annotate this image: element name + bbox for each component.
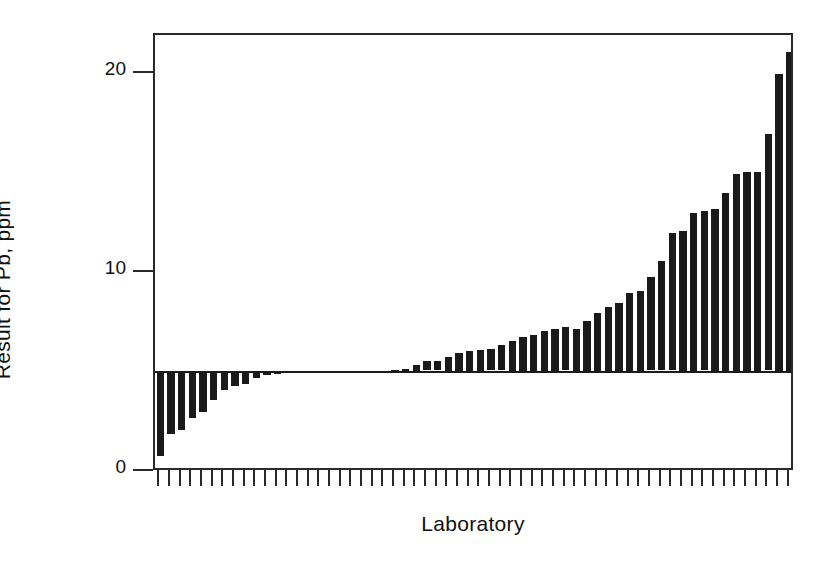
bar xyxy=(295,371,302,374)
bar xyxy=(306,371,313,373)
bar xyxy=(637,291,644,371)
bar xyxy=(402,369,409,371)
bar xyxy=(605,307,612,371)
x-axis-tick xyxy=(371,470,373,486)
bar xyxy=(647,277,654,371)
bar xyxy=(733,174,740,371)
bar xyxy=(594,313,601,371)
bar xyxy=(434,361,441,371)
x-axis-tick xyxy=(360,470,362,486)
x-axis-tick xyxy=(531,470,533,486)
y-axis-tick-label-text: 0 xyxy=(115,457,126,476)
x-axis-tick xyxy=(627,470,629,486)
bar xyxy=(445,357,452,371)
bar xyxy=(786,52,793,370)
bar xyxy=(679,231,686,370)
bar xyxy=(370,371,377,372)
x-axis-tick xyxy=(520,470,522,486)
y-axis-tick xyxy=(133,270,153,272)
y-axis-tick xyxy=(133,469,153,471)
bar xyxy=(775,74,782,371)
bar xyxy=(157,371,164,457)
bar xyxy=(743,172,750,371)
x-axis-tick xyxy=(339,470,341,486)
bar xyxy=(423,361,430,371)
x-axis-tick xyxy=(723,470,725,486)
x-axis-tick xyxy=(392,470,394,486)
x-axis-tick xyxy=(275,470,277,486)
bar xyxy=(615,303,622,371)
x-axis-tick xyxy=(744,470,746,486)
bar xyxy=(711,209,718,370)
x-axis-tick xyxy=(648,470,650,486)
x-axis-tick xyxy=(563,470,565,486)
y-axis-title: Result for Pb, ppm xyxy=(0,0,60,579)
x-axis-tick xyxy=(211,470,213,486)
y-axis-tick-label-text: 10 xyxy=(105,258,126,277)
x-axis-tick xyxy=(595,470,597,486)
y-axis-tick-label-text: 20 xyxy=(105,59,126,78)
x-axis-tick xyxy=(669,470,671,486)
x-axis-tick xyxy=(200,470,202,486)
x-axis-tick xyxy=(221,470,223,486)
y-axis-title-text: Result for Pb, ppm xyxy=(0,200,69,379)
x-axis-tick xyxy=(477,470,479,486)
y-axis-tick xyxy=(133,71,153,73)
x-axis-tick xyxy=(573,470,575,486)
x-axis-tick xyxy=(413,470,415,486)
bar xyxy=(754,172,761,371)
x-axis-tick xyxy=(605,470,607,486)
x-axis-tick xyxy=(243,470,245,486)
x-axis-tick xyxy=(456,470,458,486)
x-axis-tick xyxy=(381,470,383,486)
x-axis-tick xyxy=(445,470,447,486)
x-axis-tick xyxy=(253,470,255,486)
x-axis-tick xyxy=(189,470,191,486)
bar xyxy=(210,371,217,401)
bar xyxy=(509,341,516,371)
bar xyxy=(317,371,324,373)
bar xyxy=(349,371,356,372)
bar xyxy=(413,365,420,371)
bar xyxy=(530,335,537,371)
x-axis-tick xyxy=(168,470,170,486)
bar xyxy=(274,371,281,375)
x-axis-tick xyxy=(435,470,437,486)
plot-area xyxy=(153,33,793,470)
bar xyxy=(669,233,676,370)
x-axis-tick xyxy=(712,470,714,486)
bar xyxy=(199,371,206,413)
bar xyxy=(178,371,185,431)
x-axis-tick xyxy=(317,470,319,486)
x-axis-tick xyxy=(157,470,159,486)
bar xyxy=(338,371,345,372)
x-axis-tick xyxy=(232,470,234,486)
bar xyxy=(477,350,484,371)
reference-line xyxy=(155,371,791,373)
bar xyxy=(722,193,729,370)
x-axis-tick xyxy=(552,470,554,486)
x-axis-tick xyxy=(616,470,618,486)
bar xyxy=(327,371,334,373)
x-axis-tick xyxy=(765,470,767,486)
bar xyxy=(487,349,494,371)
bar xyxy=(498,345,505,371)
bar xyxy=(690,213,697,370)
x-axis-tick xyxy=(467,470,469,486)
x-axis-tick xyxy=(541,470,543,486)
bar xyxy=(242,371,249,385)
x-axis-tick xyxy=(659,470,661,486)
bar xyxy=(253,371,260,379)
bar xyxy=(381,371,388,372)
x-axis-title: Laboratory xyxy=(153,512,793,536)
x-axis-tick xyxy=(584,470,586,486)
x-axis-tick xyxy=(701,470,703,486)
x-axis-tick xyxy=(296,470,298,486)
x-axis-tick xyxy=(637,470,639,486)
bar xyxy=(573,329,580,371)
bar xyxy=(231,371,238,387)
bar xyxy=(455,353,462,371)
bar xyxy=(583,321,590,371)
bar xyxy=(551,329,558,371)
bar xyxy=(466,351,473,371)
